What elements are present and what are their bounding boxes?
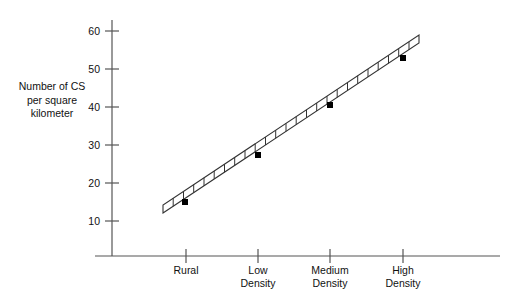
- data-markers: [182, 55, 406, 205]
- data-point-low-density[interactable]: [255, 152, 261, 158]
- band-outline: [163, 35, 419, 213]
- data-point-high-density[interactable]: [400, 55, 406, 61]
- plot-area: [0, 0, 525, 301]
- confidence-band: [163, 35, 419, 213]
- data-point-rural[interactable]: [182, 199, 188, 205]
- chart-figure: Number of CS per square kilometer 60 50 …: [0, 0, 525, 301]
- data-point-medium-density[interactable]: [327, 102, 333, 108]
